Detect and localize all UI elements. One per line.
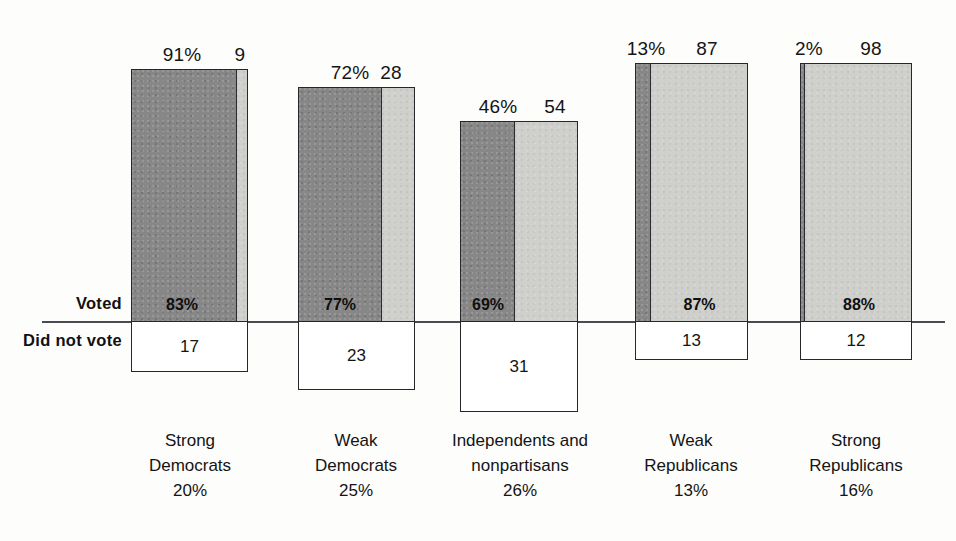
voted-bar-independents[interactable] [460, 121, 578, 322]
caption-line-3: 25% [280, 478, 432, 503]
voted-percent-independents: 69% [457, 296, 519, 314]
row-label-did-not-vote-line1: Did not [23, 331, 82, 349]
caption-line-3: 20% [114, 478, 266, 503]
caption-line-1: Weak [280, 428, 432, 453]
did-not-vote-value-strong-republicans: 12 [800, 331, 912, 351]
caption-line-1: Weak [615, 428, 767, 453]
light-segment-independents [515, 122, 577, 321]
caption-line-3: 16% [780, 478, 932, 503]
dark-segment-strong-democrats [132, 70, 237, 321]
caption-line-2: Democrats [114, 453, 266, 478]
category-caption-weak-republicans: Weak Republicans 13% [615, 428, 767, 503]
caption-line-2: Republicans [615, 453, 767, 478]
light-value-label-weak-republicans: 87 [672, 38, 742, 60]
voted-percent-weak-republicans: 87% [651, 296, 748, 314]
caption-line-2: Republicans [780, 453, 932, 478]
voted-bar-weak-republicans[interactable] [635, 63, 748, 322]
voted-bar-strong-democrats[interactable] [131, 69, 248, 322]
voted-bar-weak-democrats[interactable] [298, 87, 415, 322]
voted-percent-strong-republicans: 88% [806, 296, 912, 314]
category-caption-strong-democrats: Strong Democrats 20% [114, 428, 266, 503]
category-caption-independents: Independents and nonpartisans 26% [432, 428, 608, 503]
caption-line-2: Democrats [280, 453, 432, 478]
bar-chart: Voted Did not vote 91% 9 83% 17 Strong D… [0, 0, 956, 541]
light-segment-weak-republicans [651, 64, 747, 321]
light-segment-weak-democrats [382, 88, 414, 321]
light-value-label-strong-republicans: 98 [836, 38, 906, 60]
light-segment-strong-democrats [237, 70, 247, 321]
voted-percent-weak-democrats: 77% [298, 296, 382, 314]
dark-segment-independents [461, 122, 515, 321]
caption-line-1: Independents and [432, 428, 608, 453]
light-value-label-strong-democrats: 9 [205, 44, 275, 66]
row-label-did-not-vote: Did not vote [8, 331, 122, 350]
did-not-vote-value-weak-democrats: 23 [298, 346, 415, 366]
category-caption-weak-democrats: Weak Democrats 25% [280, 428, 432, 503]
row-label-did-not-vote-line2: vote [87, 331, 122, 349]
dark-segment-weak-republicans [636, 64, 651, 321]
light-value-label-independents: 54 [520, 96, 590, 118]
did-not-vote-value-weak-republicans: 13 [635, 331, 748, 351]
caption-line-3: 13% [615, 478, 767, 503]
caption-line-1: Strong [114, 428, 266, 453]
light-value-label-weak-democrats: 28 [356, 62, 426, 84]
light-segment-strong-republicans [805, 64, 911, 321]
dark-value-label-strong-republicans: 2% [778, 38, 840, 60]
row-label-voted: Voted [18, 294, 122, 313]
did-not-vote-value-independents: 31 [460, 357, 578, 377]
caption-line-2: nonpartisans [432, 453, 608, 478]
category-caption-strong-republicans: Strong Republicans 16% [780, 428, 932, 503]
voted-bar-strong-republicans[interactable] [800, 63, 912, 322]
caption-line-3: 26% [432, 478, 608, 503]
dark-segment-weak-democrats [299, 88, 382, 321]
voted-percent-strong-democrats: 83% [131, 296, 233, 314]
caption-line-1: Strong [780, 428, 932, 453]
did-not-vote-value-strong-democrats: 17 [131, 337, 248, 357]
